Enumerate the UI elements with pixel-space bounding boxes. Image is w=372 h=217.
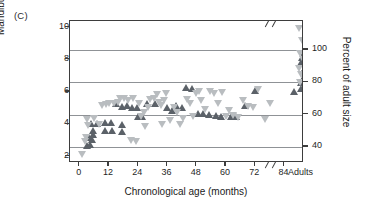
data-point-down — [249, 104, 257, 111]
data-point-down — [189, 113, 197, 120]
panel-label: (C) — [14, 10, 28, 21]
data-point-down — [197, 97, 205, 104]
data-point-down — [214, 100, 222, 107]
data-point-down — [144, 104, 152, 111]
x-axis-label: Chronological age (months) — [0, 186, 372, 197]
data-point-down — [162, 90, 170, 97]
y-tick-mark-right — [303, 81, 308, 82]
data-point-down — [176, 121, 184, 128]
x-tick-label-adults: Adults — [281, 167, 321, 177]
y-tick-label-left: 6 — [29, 85, 69, 95]
y-tick-label-right: 40 — [312, 140, 322, 150]
x-tick-mark — [166, 162, 167, 166]
data-point-up — [107, 119, 115, 126]
data-point-down — [78, 151, 86, 158]
y-tick-mark-right — [303, 113, 308, 114]
data-point-down — [186, 100, 194, 107]
data-point-down — [179, 115, 187, 122]
data-point-down — [141, 123, 149, 130]
x-tick-mark — [254, 162, 255, 166]
x-tick-mark — [137, 162, 138, 166]
data-point-down — [210, 90, 218, 97]
data-point-down — [254, 86, 262, 93]
data-point-down — [195, 88, 203, 95]
data-point-down — [132, 138, 140, 145]
data-point-up — [108, 127, 116, 134]
y-axis-label-right: Percent of adult size — [341, 22, 352, 142]
y-tick-label-left: 10 — [29, 21, 69, 31]
x-tick-mark — [195, 162, 196, 166]
y-tick-label-right: 60 — [312, 108, 322, 118]
y-tick-mark-right — [303, 48, 308, 49]
data-point-down — [84, 122, 92, 129]
data-point-down — [218, 89, 226, 96]
gridline — [70, 147, 302, 148]
data-point-down — [166, 117, 174, 124]
axis-break-mark-top — [271, 21, 283, 28]
data-point-down — [95, 121, 103, 128]
x-tick-mark — [224, 162, 225, 166]
data-point-down — [82, 134, 90, 141]
data-point-up — [118, 128, 126, 135]
data-point-down — [295, 25, 302, 32]
data-point-down — [266, 100, 274, 107]
y-tick-label-left: 8 — [29, 53, 69, 63]
figure-panel-c: (C) Mandibular depth (cm) Percent of adu… — [0, 0, 372, 217]
data-point-down — [298, 37, 302, 44]
gridline — [70, 50, 302, 51]
data-point-down — [234, 114, 242, 121]
y-tick-label-right: 100 — [312, 43, 327, 53]
data-point-down — [135, 100, 143, 107]
x-tick-mark — [283, 162, 284, 166]
y-tick-label-left: 4 — [29, 117, 69, 127]
data-point-up — [118, 121, 126, 128]
x-tick-mark — [107, 162, 108, 166]
data-point-down — [160, 97, 168, 104]
x-tick-mark — [78, 162, 79, 166]
plot-frame — [69, 20, 303, 162]
y-tick-label-right: 80 — [312, 75, 322, 85]
y-axis-label-left: Mandibular depth (cm) — [0, 0, 6, 50]
data-point-down — [299, 56, 302, 63]
y-tick-mark-right — [303, 145, 308, 146]
data-point-down — [297, 71, 302, 78]
y-tick-label-left: 2 — [29, 150, 69, 160]
plot-area — [70, 21, 302, 161]
data-point-down — [261, 116, 269, 123]
data-point-down — [201, 106, 209, 113]
data-point-down — [296, 79, 302, 86]
